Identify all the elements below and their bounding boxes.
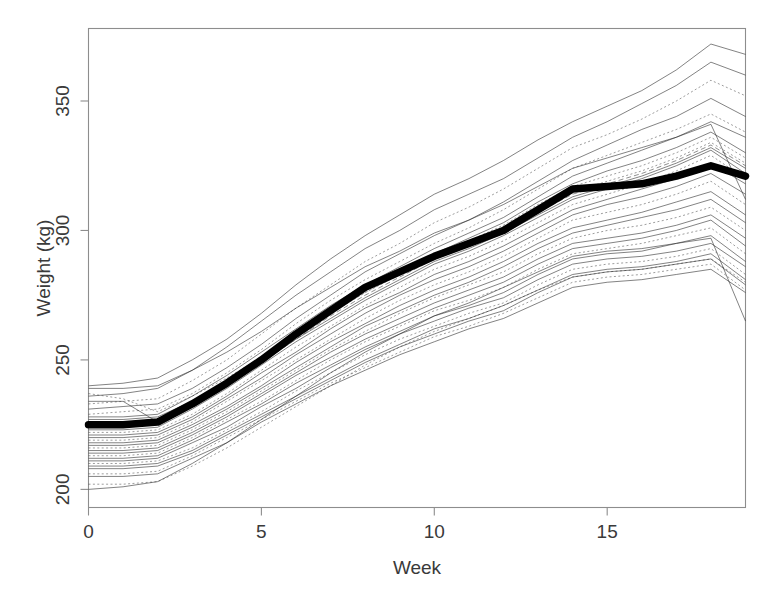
y-axis-tick-labels: 200250300350 (52, 85, 73, 505)
x-axis-ticks (89, 508, 608, 516)
subject-trajectory-line (89, 236, 746, 459)
subject-trajectory-line (89, 254, 746, 466)
y-axis-title: Weight (kg) (33, 220, 54, 317)
weight-growth-spaghetti-chart: 200250300350 051015 Weight (kg) Week (0, 0, 784, 595)
subject-trajectory-line (89, 249, 746, 464)
x-tick-label: 15 (597, 521, 618, 542)
subject-trajectory-line (89, 238, 746, 489)
y-tick-label: 250 (52, 344, 73, 376)
figure-container: 200250300350 051015 Weight (kg) Week (0, 0, 784, 595)
y-axis-ticks (81, 101, 89, 489)
x-tick-label: 0 (83, 521, 94, 542)
x-tick-label: 5 (256, 521, 267, 542)
subject-trajectory-line (89, 173, 746, 437)
subject-trajectory-line (89, 163, 746, 435)
y-tick-label: 200 (52, 474, 73, 506)
x-tick-label: 10 (424, 521, 445, 542)
x-axis-title: Week (393, 557, 442, 578)
y-tick-label: 300 (52, 215, 73, 247)
subject-trajectory-line (89, 62, 746, 396)
subject-trajectory-line (89, 148, 746, 422)
subject-trajectory-line (89, 44, 746, 386)
y-tick-label: 350 (52, 85, 73, 117)
subject-trajectory-line (89, 243, 746, 460)
x-axis-tick-labels: 051015 (83, 521, 618, 542)
subject-trajectory-line (89, 132, 746, 419)
subject-trajectory-line (89, 150, 746, 430)
subject-trajectory-line (89, 124, 746, 388)
